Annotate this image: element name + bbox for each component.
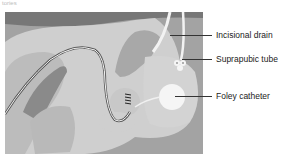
- foley-catheter-label: Foley catheter: [216, 91, 270, 101]
- suprapubic-tube-leader: [182, 59, 212, 60]
- incisional-drain-label: Incisional drain: [216, 30, 273, 40]
- suprapubic-tube-label: Suprapubic tube: [216, 54, 278, 64]
- incisional-drain-leader: [170, 35, 212, 36]
- anatomy-illustration: [5, 12, 203, 154]
- figure-caption-fragment: tories: [2, 0, 17, 6]
- foley-catheter-leader: [175, 96, 212, 97]
